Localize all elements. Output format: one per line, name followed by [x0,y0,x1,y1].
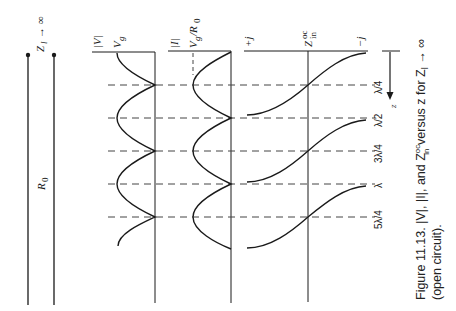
figure-canvas: Z l → ∞ R 0 |V| [0,0,456,311]
impedance-label: R 0 [35,177,50,191]
z-axis-arrow [387,52,394,100]
position-label: λ/4 [373,80,384,94]
z-axis-label: z [388,104,398,109]
vertical-axes [155,51,308,303]
svg-text:l: l [39,41,49,44]
svg-text:R: R [35,183,47,191]
terminal-dot [26,53,30,57]
impedance-center-label: Z oc in [299,31,318,48]
svg-text:(open circuit).: (open circuit). [430,224,444,300]
position-label: λ/2 [373,113,384,127]
position-label: λ [373,183,384,188]
svg-text:λ/4: λ/4 [373,80,384,94]
arrow-head-icon [387,92,394,100]
voltage-axis-label: |V| [91,35,103,48]
svg-text:→ ∞: → ∞ [34,16,46,38]
svg-text:Z: Z [34,45,46,52]
svg-text:λ: λ [373,183,384,188]
svg-text:in: in [308,31,318,39]
svg-text:−j: −j [354,37,366,47]
svg-text:|V|: |V| [91,35,103,48]
svg-text:|I|: |I| [168,38,180,48]
current-axis-label: |I| [168,38,180,48]
svg-text:5λ/4: 5λ/4 [373,210,384,229]
svg-text:Z: Z [302,40,314,47]
top-baselines [92,51,400,52]
impedance-minus-label: −j [354,37,366,47]
svg-text:g: g [116,36,126,41]
svg-text:λ/2: λ/2 [373,113,384,127]
svg-text:+j: +j [242,37,254,47]
voltage-level-label: V g [111,36,126,48]
load-label: Z l → ∞ [34,16,49,52]
figure-caption: Figure 11.13. |V|, |I|, and Zocin versus… [413,39,444,300]
position-label: 5λ/4 [373,210,384,229]
svg-text:/R: /R [187,26,199,37]
svg-text:0: 0 [192,18,202,23]
position-label: 3λ/4 [373,144,384,163]
current-level-label: V g /R 0 [187,18,202,48]
svg-text:Figure 11.13. |V|, |I|, and: Figure 11.13. |V|, |I|, and Zocin versus… [413,39,431,300]
svg-text:3λ/4: 3λ/4 [373,144,384,163]
svg-text:z: z [388,104,398,109]
svg-text:0: 0 [40,177,50,182]
terminal-dot [52,53,56,57]
impedance-plus-label: +j [242,37,254,47]
